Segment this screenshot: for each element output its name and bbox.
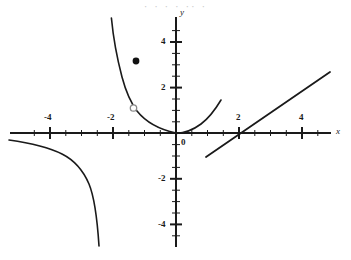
y-tick-label-neg2: -2 <box>158 174 166 183</box>
x-tick-label-neg2: -2 <box>107 113 115 122</box>
filled-point-marker <box>133 58 140 65</box>
curve-parabola-right <box>176 100 221 134</box>
x-tick-label-neg4: -4 <box>44 113 52 122</box>
y-axis-label: y <box>180 8 184 17</box>
origin-label: 0 <box>181 138 186 147</box>
x-axis-label: x <box>336 127 340 136</box>
curve-straight-line <box>206 72 330 157</box>
x-tick-label-pos4: 4 <box>299 113 304 122</box>
open-point-hole-marker <box>130 105 136 111</box>
coordinate-plane-plot <box>0 0 351 260</box>
y-tick-label-pos2: 2 <box>161 83 166 92</box>
x-tick-label-pos2: 2 <box>236 113 241 122</box>
y-tick-label-neg4: -4 <box>158 220 166 229</box>
curve-rational-lower-left <box>9 140 99 246</box>
curve-rational-upper-left <box>111 18 176 133</box>
y-tick-label-pos4: 4 <box>161 37 166 46</box>
graph-screenshot: · · · · ·· · <box>0 0 351 260</box>
